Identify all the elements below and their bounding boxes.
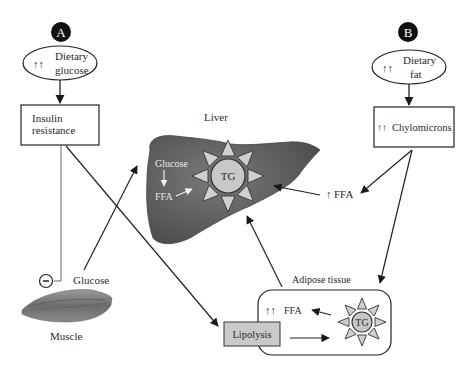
dietary-fat-line1: Dietary — [403, 54, 436, 66]
insulin-resistance-line1: Insulin — [32, 112, 63, 124]
adipose-ffa-label: FFA — [284, 305, 302, 316]
muscle-label: Muscle — [50, 330, 83, 342]
lipolysis-box: Lipolysis — [224, 322, 280, 346]
up-arrow-icon: ↑ — [326, 188, 332, 200]
badge-b-label: B — [404, 25, 413, 40]
inhibition-line — [54, 145, 61, 281]
dietary-glucose-node: ↑↑ Dietary glucose — [23, 46, 97, 80]
arrow-ffa-to-liver — [274, 186, 320, 195]
liver-glucose-label: Glucose — [155, 158, 188, 169]
badge-a-label: A — [56, 25, 66, 40]
dietary-fat-line2: fat — [410, 68, 422, 80]
liver-tg-label: TG — [221, 170, 236, 182]
arrow-adipose-to-liver — [247, 216, 282, 287]
chylomicrons-box: ↑↑ Chylomicrons — [374, 107, 454, 147]
arrow-chylomicrons-to-adipose — [380, 150, 412, 283]
dietary-glucose-line2: glucose — [55, 64, 89, 76]
up-arrows-icon: ↑↑ — [265, 304, 276, 316]
liver-title: Liver — [204, 111, 228, 123]
badge-b: B — [398, 22, 418, 42]
adipose-title: Adipose tissue — [292, 274, 351, 285]
plasma-ffa-label: FFA — [334, 188, 353, 200]
dietary-glucose-line1: Dietary — [55, 50, 88, 62]
lipolysis-label: Lipolysis — [232, 329, 271, 340]
up-arrows-icon: ↑↑ — [33, 58, 44, 70]
inhibit-symbol — [40, 275, 53, 288]
insulin-resistance-line2: resistance — [32, 124, 75, 136]
insulin-resistance-box: Insulin resistance — [21, 105, 99, 145]
arrow-chylomicrons-to-ffa — [361, 150, 412, 193]
muscle-illustration — [22, 290, 112, 322]
liver-ffa-label: FFA — [155, 191, 173, 202]
badge-a: A — [51, 22, 71, 42]
muscle-glucose-label: Glucose — [73, 274, 109, 286]
chylomicrons-label: Chylomicrons — [392, 122, 452, 133]
up-arrows-icon: ↑↑ — [382, 62, 393, 74]
adipose-tg-label: TG — [355, 317, 368, 328]
diagram-canvas: A ↑↑ Dietary glucose Insulin resistance … — [0, 0, 473, 371]
up-arrows-icon: ↑↑ — [377, 122, 387, 133]
dietary-fat-node: ↑↑ Dietary fat — [372, 50, 446, 84]
arrow-glucose-to-liver — [84, 166, 137, 270]
